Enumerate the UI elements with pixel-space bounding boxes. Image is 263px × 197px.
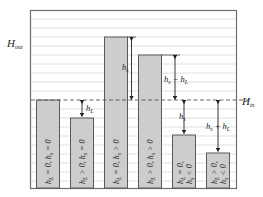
bar-5-condition-line2: hs < 0 xyxy=(185,164,195,184)
h-out-label: Hout xyxy=(6,37,23,50)
bar-2-condition: hL > 0, hs = 0 xyxy=(78,140,88,185)
head-diagram: Hout Hin hL hs hs − hL hs hs + hL hL = 0… xyxy=(0,0,263,197)
bar-1-condition: hL = 0, hs = 0 xyxy=(44,140,54,185)
bar-6-condition-line2: hs < 0 xyxy=(219,164,229,184)
h-in-label: Hin xyxy=(241,95,255,108)
bar-3-condition: hL = 0, hs > 0 xyxy=(112,140,122,185)
bar-4-condition: hL > 0, hs > 0 xyxy=(146,140,156,185)
